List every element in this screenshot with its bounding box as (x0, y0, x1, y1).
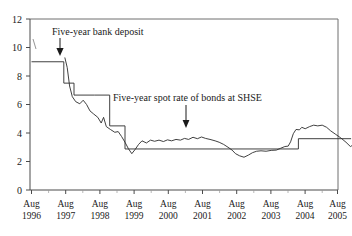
plot-frame (30, 19, 338, 190)
x-tick-label-month: Aug (58, 199, 75, 209)
x-tick-label-month: Aug (23, 199, 40, 209)
annotation-spot-rate: Five-year spot rate of bonds at SHSE (113, 92, 262, 128)
x-tick-label-month: Aug (263, 199, 280, 209)
y-axis-labels: 0 2 4 6 8 10 12 (12, 14, 22, 196)
x-tick-label-year: 1999 (125, 211, 144, 221)
y-tick-label: 12 (12, 14, 22, 25)
stray-pen-mark (33, 39, 36, 49)
annotation-label-bank-deposit: Five-year bank deposit (52, 26, 144, 37)
annotation-arrow-head (183, 120, 190, 128)
y-tick-label: 6 (17, 99, 22, 110)
y-tick-label: 4 (17, 128, 22, 139)
chart-figure: 0 2 4 6 8 10 12 (0, 0, 352, 236)
x-tick-label-month: Aug (126, 199, 143, 209)
x-tick-label-year: 2005 (328, 211, 347, 221)
series-line-spot-rate (65, 57, 352, 157)
x-tick-label-year: 1996 (22, 211, 41, 221)
series-line-bank-deposit (32, 62, 352, 149)
x-tick-label-month: Aug (194, 199, 211, 209)
y-tick-label: 10 (12, 42, 22, 53)
x-tick-label-year: 2004 (296, 211, 315, 221)
x-tick-label-month: Aug (229, 199, 246, 209)
annotation-arrow-head (56, 48, 63, 56)
x-tick-label-year: 1997 (56, 211, 75, 221)
y-tick-label: 8 (17, 71, 22, 82)
x-tick-label-year: 2001 (193, 211, 212, 221)
annotation-bank-deposit: Five-year bank deposit (52, 26, 144, 56)
x-tick-label-year: 1998 (90, 211, 109, 221)
x-axis-ticks (32, 190, 338, 194)
line-chart: 0 2 4 6 8 10 12 (0, 0, 352, 236)
y-axis-ticks (26, 19, 30, 190)
annotation-label-spot-rate: Five-year spot rate of bonds at SHSE (113, 92, 262, 103)
x-axis-labels: Aug 1996 Aug 1997 Aug 1998 Aug 1999 Aug … (22, 199, 347, 221)
y-tick-label: 2 (17, 156, 22, 167)
x-tick-label-month: Aug (160, 199, 177, 209)
x-tick-label-year: 2002 (227, 211, 246, 221)
x-tick-label-month: Aug (297, 199, 314, 209)
x-tick-label-year: 2003 (261, 211, 280, 221)
x-tick-label-month: Aug (329, 199, 346, 209)
x-tick-label-year: 2000 (159, 211, 178, 221)
y-tick-label: 0 (17, 185, 22, 196)
x-tick-label-month: Aug (92, 199, 109, 209)
